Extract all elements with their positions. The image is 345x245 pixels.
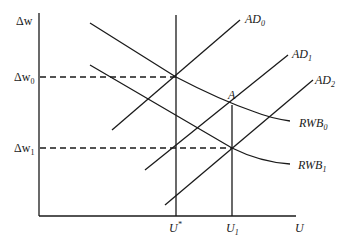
rwb1-label: RWB1 [297,158,326,174]
u1-label: U1 [226,221,239,237]
ad1-label: AD1 [291,47,312,63]
rwb0-curve [90,23,290,121]
point-a-label: A [227,88,236,102]
y-axis-label: Δw [16,14,33,28]
dw1-label: Δw1 [14,141,34,157]
ad1-line [145,55,288,170]
u-star-label: U* [169,220,182,235]
dw0-label: Δw0 [14,70,34,86]
ad2-line [165,80,313,205]
ad0-label: AD0 [244,12,265,28]
ad2-label: AD2 [314,73,335,89]
diagram-canvas: Δw Δw0 Δw1 U* U1 U AD0 AD1 AD2 RWB0 RWB1… [0,0,345,245]
x-axis-label: U [295,221,305,235]
rwb0-label: RWB0 [298,116,327,132]
